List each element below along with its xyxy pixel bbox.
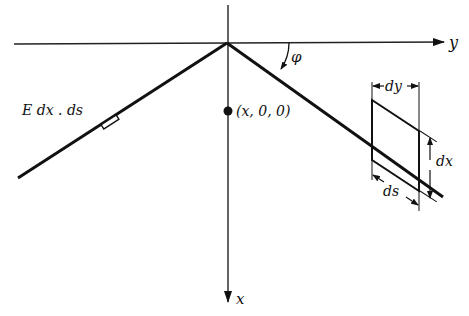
dx-extension-bottom [420,191,437,202]
charge-label: E dx . ds [21,102,83,118]
ds-label: ds [383,183,399,199]
angle-label: φ [291,48,302,66]
y-axis-label: y [448,33,459,52]
point-marker [224,107,233,116]
dx-extension-top [420,131,437,142]
dy-label: dy [385,78,403,94]
x-axis-label: x [236,290,245,308]
right-line [227,43,443,197]
diagram-canvas: φ (x, 0, 0) E dx . ds dy dx ds y x [0,0,469,316]
ds-arrow-left [373,175,384,182]
dx-label: dx [436,153,453,169]
angle-arc [281,43,289,69]
area-element [372,100,419,191]
ds-arrow-right [406,197,418,205]
point-label: (x, 0, 0) [236,103,290,119]
